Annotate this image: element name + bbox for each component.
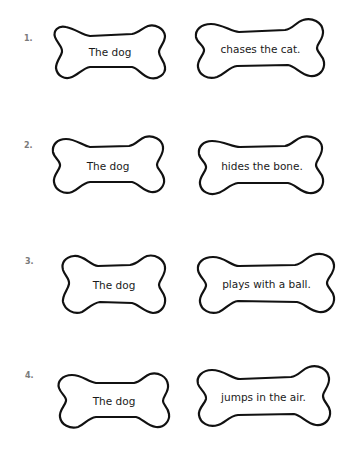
item-number: 4. (25, 371, 34, 380)
subject-bone: The dog (56, 371, 172, 431)
item-number: 1. (24, 34, 33, 43)
predicate-text: hides the bone. (196, 160, 328, 172)
subject-text: The dog (60, 279, 168, 291)
predicate-bone: plays with a ball. (195, 251, 338, 317)
subject-bone: The dog (50, 133, 166, 198)
subject-text: The dog (56, 395, 172, 407)
predicate-text: chases the cat. (193, 43, 328, 55)
item-number: 3. (25, 257, 34, 266)
predicate-text: jumps in the air. (194, 391, 333, 403)
predicate-bone: jumps in the air. (194, 362, 333, 432)
subject-bone: The dog (52, 23, 168, 81)
subject-text: The dog (52, 46, 168, 58)
subject-bone: The dog (60, 252, 168, 318)
item-number: 2. (24, 141, 33, 150)
predicate-text: plays with a ball. (195, 278, 338, 290)
predicate-bone: chases the cat. (193, 16, 328, 82)
subject-text: The dog (50, 160, 166, 172)
predicate-bone: hides the bone. (196, 133, 328, 199)
